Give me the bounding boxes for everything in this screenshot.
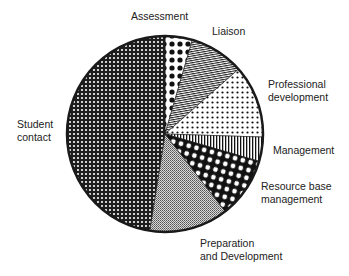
label-preparation-line1: Preparation [200,237,282,250]
pie-slice-student-contact [67,36,165,231]
label-student-line1: Student [17,118,53,131]
label-preparation-line2: and Development [200,250,282,263]
label-professional-line2: development [268,91,328,104]
label-resource-base-management: Resource base management [261,180,332,205]
label-student-contact: Student contact [17,118,53,143]
label-student-line2: contact [17,131,53,144]
label-assessment: Assessment [131,10,188,23]
label-management: Management [273,144,334,157]
label-professional-development: Professional development [268,78,328,103]
label-professional-line1: Professional [268,78,328,91]
label-resource-line1: Resource base [261,180,332,193]
label-preparation-and-development: Preparation and Development [200,237,282,262]
label-liaison: Liaison [212,25,245,38]
label-resource-line2: management [261,193,332,206]
